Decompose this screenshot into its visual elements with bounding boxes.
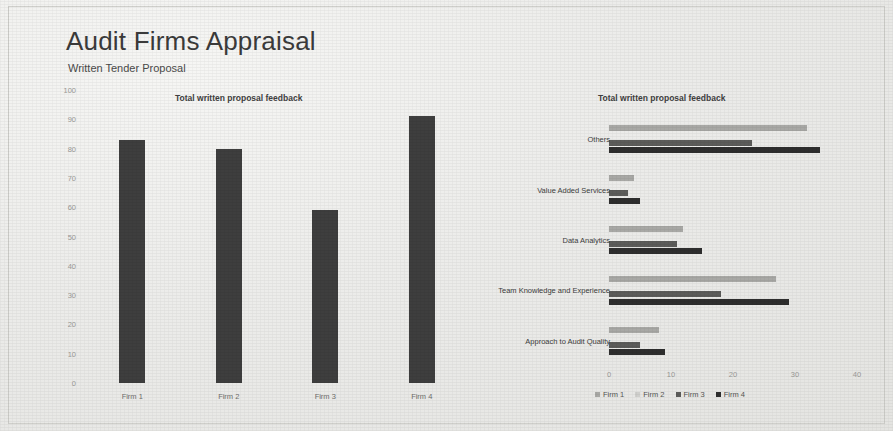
column-chart-y-tick: 50 xyxy=(68,232,76,241)
bar-chart-x-axis: 010203040 xyxy=(609,370,857,384)
bar-chart-category-label: Team Knowledge and Experience xyxy=(498,286,610,295)
bar-chart-category-label: Data Analytics xyxy=(562,236,610,245)
bar-chart-bar xyxy=(609,175,634,181)
column-chart-category-label: Firm 4 xyxy=(374,392,471,401)
column-chart-bar xyxy=(409,116,435,383)
bar-chart-x-tick: 10 xyxy=(667,370,675,379)
column-chart-bar-group xyxy=(84,90,181,383)
column-chart-y-axis: 0102030405060708090100 xyxy=(40,84,80,384)
column-chart-y-tick: 30 xyxy=(68,291,76,300)
legend-swatch-icon xyxy=(716,392,721,397)
bar-chart-category-label: Others xyxy=(587,135,610,144)
bar-chart-bar xyxy=(609,241,677,247)
bar-chart-legend-item[interactable]: Firm 2 xyxy=(635,390,664,399)
bar-chart-legend-item[interactable]: Firm 3 xyxy=(676,390,705,399)
column-chart-plot-area: Firm 1Firm 2Firm 3Firm 4 xyxy=(84,90,470,383)
column-chart-y-tick: 20 xyxy=(68,320,76,329)
bar-chart-x-tick: 20 xyxy=(729,370,737,379)
bar-chart-legend-label: Firm 1 xyxy=(603,390,624,399)
bar-chart-category-label: Value Added Services xyxy=(537,185,610,194)
bar-chart-category-label: Approach to Audit Quality xyxy=(525,336,610,345)
bar-chart-legend: Firm 1Firm 2Firm 3Firm 4 xyxy=(595,390,745,399)
bar-chart-bar xyxy=(609,147,820,153)
bar-chart-bar xyxy=(609,342,640,348)
bar-chart-legend-label: Firm 3 xyxy=(684,390,705,399)
page-title: Audit Firms Appraisal xyxy=(66,26,316,57)
bar-chart-bar xyxy=(609,291,721,297)
bar-chart-bar xyxy=(609,190,628,196)
bar-chart-bar xyxy=(609,198,640,204)
bar-chart-bar xyxy=(609,276,776,282)
legend-swatch-icon xyxy=(635,392,640,397)
bar-chart-plot-area xyxy=(609,114,857,366)
column-chart-y-tick: 0 xyxy=(72,379,76,388)
column-chart-bar-group xyxy=(277,90,374,383)
column-chart-category-label: Firm 1 xyxy=(84,392,181,401)
bar-chart-bar xyxy=(609,327,659,333)
page-subtitle: Written Tender Proposal xyxy=(68,62,186,74)
bar-chart-x-tick: 40 xyxy=(853,370,861,379)
column-chart-y-tick: 40 xyxy=(68,261,76,270)
bar-chart-x-tick: 0 xyxy=(607,370,611,379)
column-chart-y-tick: 80 xyxy=(68,144,76,153)
legend-swatch-icon xyxy=(595,392,600,397)
column-chart-bar-group xyxy=(374,90,471,383)
column-chart-y-tick: 90 xyxy=(68,115,76,124)
column-chart-bar xyxy=(312,210,338,383)
legend-swatch-icon xyxy=(676,392,681,397)
column-chart-y-tick: 10 xyxy=(68,349,76,358)
bar-chart-legend-item[interactable]: Firm 4 xyxy=(716,390,745,399)
column-chart-bar xyxy=(119,140,145,383)
bar-chart-legend-item[interactable]: Firm 1 xyxy=(595,390,624,399)
bar-chart-bar xyxy=(609,125,807,131)
bar-chart-bar xyxy=(609,299,789,305)
bar-chart-legend-label: Firm 2 xyxy=(643,390,664,399)
bar-chart-plot-wrapper: Approach to Audit QualityTeam Knowledge … xyxy=(470,114,870,366)
bar-chart-bar xyxy=(609,349,665,355)
bar-chart-bar xyxy=(609,226,683,232)
bar-chart: Total written proposal feedback Approach… xyxy=(470,84,870,414)
column-chart: Total written proposal feedback 01020304… xyxy=(40,84,470,394)
column-chart-category-label: Firm 3 xyxy=(277,392,374,401)
bar-chart-bar xyxy=(609,248,702,254)
column-chart-category-label: Firm 2 xyxy=(181,392,278,401)
bar-chart-bar xyxy=(609,140,752,146)
column-chart-y-tick: 70 xyxy=(68,173,76,182)
column-chart-y-tick: 60 xyxy=(68,203,76,212)
bar-chart-legend-label: Firm 4 xyxy=(724,390,745,399)
column-chart-bar-group xyxy=(181,90,278,383)
column-chart-y-tick: 100 xyxy=(63,86,76,95)
column-chart-bar xyxy=(216,149,242,383)
bar-chart-title: Total written proposal feedback xyxy=(598,93,725,103)
bar-chart-x-tick: 30 xyxy=(791,370,799,379)
